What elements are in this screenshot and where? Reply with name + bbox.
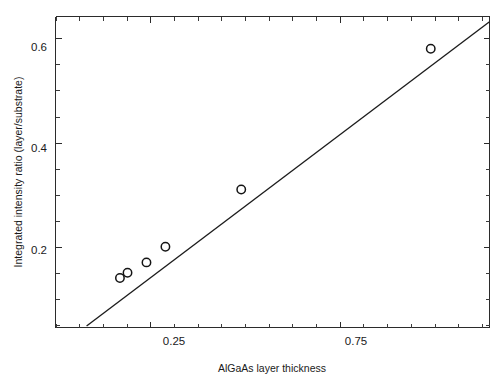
data-point-marker [237, 185, 245, 193]
data-point-marker [427, 45, 435, 53]
y-tick-label-1: 0.4 [31, 142, 48, 154]
data-point-marker [161, 243, 169, 251]
data-point-marker [142, 258, 150, 266]
plot-svg: 0.25 0.75 0.2 0.4 0.6 AlGaAs layer thick… [0, 0, 504, 386]
scatter-plot-figure: 0.25 0.75 0.2 0.4 0.6 AlGaAs layer thick… [0, 0, 504, 386]
x-tick-label-1: 0.75 [345, 335, 367, 347]
x-axis-title: AlGaAs layer thickness [218, 362, 326, 374]
y-axis-title: Integrated intensity ratio (layer/substr… [12, 77, 24, 268]
data-point-marker [123, 269, 131, 277]
x-tick-label-0: 0.25 [163, 335, 185, 347]
y-tick-label-2: 0.6 [31, 41, 47, 53]
data-point-marker [116, 274, 124, 282]
y-tick-label-0: 0.2 [31, 244, 47, 256]
